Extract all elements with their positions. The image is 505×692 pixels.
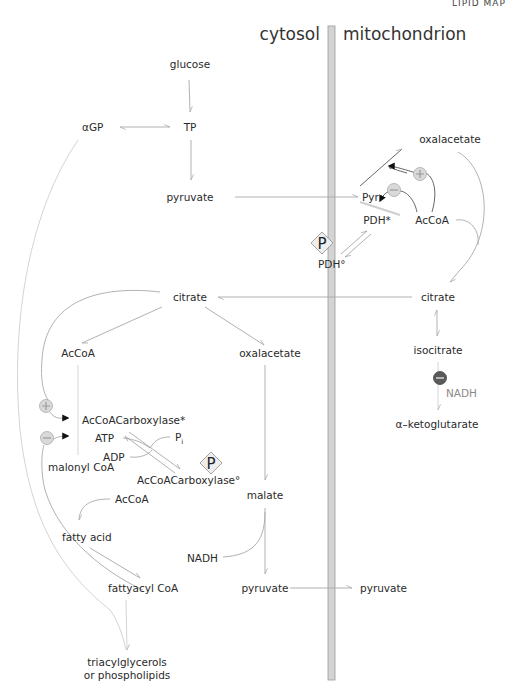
arrow-pdh-activation [341, 231, 367, 254]
metabolite-isocitrate: isocitrate [414, 344, 463, 356]
metabolite-accoa-fa: AcCoA [115, 493, 150, 505]
line-adp-out [130, 450, 152, 457]
metabolite-nadh-cyto: NADH [187, 552, 218, 564]
svg-text:P: P [206, 455, 215, 473]
compartment-cytosol: cytosol [260, 24, 320, 44]
metabolite-glucose: glucose [170, 58, 210, 70]
corner-title: LIPID MAP [452, 0, 505, 8]
inhibitor-minus-icon-acc [41, 432, 54, 445]
arrow-citrate-accoa [82, 307, 162, 343]
enzyme-acc-active: AcCoACarboxylase* [82, 414, 185, 426]
arrow-malate-nadh [223, 512, 265, 557]
metabolite-tp: TP [183, 121, 197, 133]
arrow-fatty-acid-fattyacyl [90, 548, 140, 578]
product-pi: Pi [175, 431, 183, 446]
metabolite-oxalacetate-cyto: oxalacetate [239, 347, 300, 359]
product-phospholipids: or phospholipids [84, 669, 171, 681]
inhibition-arrow-acc [52, 436, 68, 440]
metabolite-fatty-acid: fatty acid [62, 531, 112, 543]
phospho-badge-acc: P [200, 452, 222, 474]
arrow-glucose-tp [189, 80, 190, 112]
metabolite-malonyl-coa: malonyl CoA [48, 461, 115, 473]
compartment-mitochondrion: mitochondrion [343, 24, 466, 44]
arrow-acc-activation [125, 436, 175, 473]
metabolite-accoa-cyto: AcCoA [61, 347, 96, 359]
arrow-oxalacetate-citrate-mito [450, 152, 484, 282]
metabolite-fattyacyl-coa: fattyacyl CoA [108, 582, 179, 594]
svg-text:P: P [317, 235, 326, 253]
activator-plus-icon [414, 168, 427, 181]
enzyme-pdh-active: PDH* [363, 214, 391, 226]
metabolite-oxalacetate-mito: oxalacetate [419, 133, 480, 145]
metabolite-pyruvate-cytosol: pyruvate [166, 191, 213, 203]
modifier-line-minus-pdh [398, 191, 417, 212]
activation-arrow-acc [50, 412, 68, 418]
activator-plus-icon-acc [40, 400, 53, 413]
cofactor-atp: ATP [95, 432, 114, 444]
inhibitor-minus-icon-pdh [388, 184, 401, 197]
inhibitor-minus-icon-nadh [434, 372, 447, 385]
arrow-pdh-inactivation [345, 234, 371, 257]
arrow-accoa-fatty-acid [79, 499, 110, 520]
metabolite-nadh-mito: NADH [446, 387, 477, 399]
lipid-metabolism-diagram: LIPID MAP cytosol mitochondrion glucose … [0, 0, 505, 692]
metabolite-akg: α–ketoglutarate [396, 418, 479, 430]
product-triacylglycerols: triacylglycerols [87, 656, 167, 668]
metabolite-pyruvate-cyto-2: pyruvate [241, 582, 288, 594]
metabolite-citrate-mito: citrate [421, 291, 455, 303]
metabolite-malate: malate [247, 489, 284, 501]
metabolite-pyruvate-mito-2: pyruvate [360, 582, 407, 594]
metabolite-citrate-cyto: citrate [173, 291, 207, 303]
line-atp-in [123, 438, 150, 448]
arrow-agp-triacylglycerols [17, 140, 126, 650]
metabolite-pyr-mito: Pyr [362, 191, 380, 203]
metabolite-agp: αGP [82, 121, 103, 133]
arrow-acc-inactivation [129, 432, 180, 469]
enzyme-acc-inactive: AcCoACarboxylase° [137, 474, 240, 486]
line-pi-out [150, 437, 170, 448]
metabolite-accoa-mito: AcCoA [415, 214, 450, 226]
arrow-fattyacyl-tag [126, 600, 127, 650]
enzyme-pdh-inactive: PDH° [318, 258, 346, 270]
mitochondrial-membrane [328, 26, 335, 680]
arrow-citrate-oxalacetate [205, 307, 264, 345]
modifier-line-citrate-acc [42, 290, 160, 400]
arrow-accoa-to-citrate [456, 220, 478, 245]
